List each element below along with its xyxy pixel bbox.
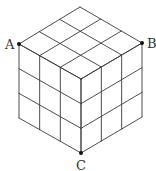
right-face-line (81, 68, 142, 104)
point-b-marker (140, 41, 144, 45)
point-b-label: B (147, 36, 156, 51)
right-face-line (81, 117, 142, 153)
cube-grid-lines (19, 7, 142, 153)
point-a-marker (17, 42, 21, 46)
point-a-label: A (4, 37, 15, 52)
point-c-marker (79, 151, 83, 155)
cube-diagram: ABC (0, 0, 156, 171)
isometric-cube-figure: ABC (0, 0, 156, 171)
point-c-label: C (76, 158, 86, 171)
right-face-line (81, 92, 142, 128)
